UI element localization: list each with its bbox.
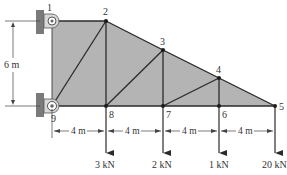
node-label-5: 5: [279, 101, 284, 112]
node-label-4: 4: [216, 64, 221, 75]
span-label-2: 4 m: [125, 126, 140, 136]
node-label-1: 1: [47, 2, 52, 13]
span-label-4: 4 m: [238, 126, 253, 136]
pin-support-1: [44, 14, 59, 28]
joint-2: [104, 19, 108, 23]
load-label-5: 20 kN: [262, 159, 287, 170]
wall-bottom: [36, 93, 44, 117]
wall-top: [36, 10, 44, 34]
node-label-3: 3: [160, 36, 165, 47]
joint-3: [161, 48, 165, 52]
load-label-6: 1 kN: [209, 159, 229, 170]
pin-support-9: [44, 99, 59, 113]
load-label-7: 2 kN: [152, 159, 172, 170]
span-label-1: 4 m: [71, 126, 86, 136]
node-label-2: 2: [103, 6, 108, 17]
load-label-8: 3 kN: [95, 159, 115, 170]
height-dimension-label: 6 m: [4, 59, 20, 70]
joint-4: [217, 76, 221, 80]
truss-diagram: 1 2 3 4 5 6 7 8 9 6 m 4 m 4 m 4 m 4 m 3 …: [0, 0, 287, 175]
span-label-3: 4 m: [182, 126, 197, 136]
node-label-7: 7: [166, 109, 171, 120]
node-label-6: 6: [222, 109, 227, 120]
node-label-8: 8: [109, 109, 114, 120]
